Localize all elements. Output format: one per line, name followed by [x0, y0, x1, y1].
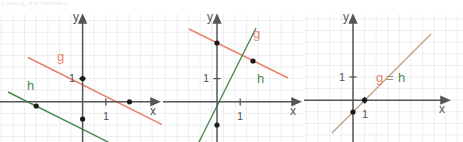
panel-3-y-tick-label: 1 — [339, 71, 345, 83]
panel-1-x-axis-label: x — [150, 104, 156, 118]
point-g-y-intercept — [214, 40, 219, 45]
point-y-intercept — [350, 109, 355, 114]
panel-2-x-tick-label: 1 — [237, 110, 243, 122]
figure-container: Lösung, die Geraden — [0, 0, 463, 142]
panel-2-line-h-label: h — [257, 71, 264, 86]
panel-1: y x 1 1 g h — [0, 0, 162, 142]
panel-2-y-axis-label: y — [207, 10, 213, 24]
panel-3-line-g-label: g — [376, 70, 383, 85]
point-h-y-intercept — [80, 116, 85, 121]
y-axis-arrow — [79, 15, 86, 23]
point-intersection-g-h — [250, 58, 255, 63]
panel-3-line-h-label: h — [398, 70, 405, 85]
panel-3-x-tick-label: 1 — [362, 108, 368, 120]
panel-2-x-axis-label: x — [290, 104, 296, 118]
point-g-y-intercept — [80, 76, 85, 81]
panel-3: y x 1 1 g = h — [304, 0, 463, 142]
panel-3-plot: y x 1 1 g = h — [304, 0, 463, 142]
panel-2-y-tick-label: 1 — [203, 72, 209, 84]
panel-1-plot: y x 1 1 g h — [0, 0, 162, 142]
y-axis-arrow — [350, 15, 357, 23]
point-x-intercept — [362, 98, 367, 103]
line-g — [189, 29, 288, 78]
panel-2-plot: y x 1 1 g h — [163, 0, 303, 142]
point-g-x-intercept — [127, 99, 132, 104]
panel-1-line-g-label: g — [57, 49, 64, 64]
panel-3-x-axis-label: x — [439, 102, 445, 116]
grid-lines — [163, 14, 303, 142]
point-h-x-intercept — [34, 103, 39, 108]
panel-2: y x 1 1 g h — [163, 0, 303, 142]
panel-2-line-g-label: g — [253, 26, 260, 41]
panel-1-x-tick-label: 1 — [103, 110, 109, 122]
panel-1-y-axis-label: y — [73, 10, 79, 24]
panel-1-y-tick-label: 1 — [69, 72, 75, 84]
point-h-y-intercept — [214, 122, 219, 127]
y-axis-arrow — [214, 15, 221, 23]
panel-1-line-h-label: h — [27, 78, 34, 93]
panel-3-equals-sign: = — [386, 70, 394, 85]
panel-3-y-axis-label: y — [343, 10, 349, 24]
grid-lines — [304, 14, 463, 142]
